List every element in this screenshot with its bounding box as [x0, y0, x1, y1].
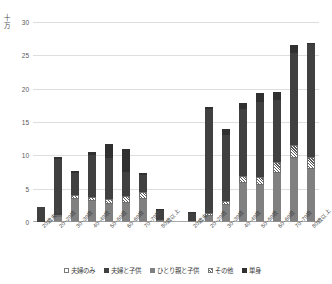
bar-segment — [139, 173, 147, 174]
legend-item[interactable]: 夫婦と子供 — [104, 266, 141, 275]
bar-segment — [256, 93, 264, 102]
bar-segment — [239, 109, 247, 176]
bar-segment — [256, 102, 264, 177]
plot-area — [33, 22, 319, 222]
bar-segment — [122, 149, 130, 172]
y-tick-label: 10 — [22, 152, 29, 159]
legend-label: ひとり親と子供 — [157, 266, 199, 275]
bar-column[interactable] — [307, 43, 315, 222]
chart-legend: 夫婦のみ夫婦と子供ひとり親と子供その他単身 — [0, 266, 325, 275]
bar-segment — [290, 53, 298, 146]
bar-segment — [105, 144, 113, 158]
bar-segment — [307, 43, 315, 44]
legend-item[interactable]: ひとり親と子供 — [150, 266, 199, 275]
bar-segment — [71, 195, 79, 199]
bar-segment — [256, 177, 264, 185]
bar-segment — [273, 100, 281, 162]
bar-segment — [71, 173, 79, 194]
legend-label: その他 — [215, 266, 233, 275]
y-tick-label: 25 — [22, 52, 29, 59]
bar-segment — [122, 172, 130, 196]
legend-item[interactable]: 夫婦のみ — [64, 266, 95, 275]
bar-segment — [139, 192, 147, 199]
legend-item[interactable]: その他 — [208, 266, 233, 275]
bar-segment — [307, 44, 315, 157]
y-tick-label: 15 — [22, 119, 29, 126]
bar-column[interactable] — [290, 45, 298, 222]
x-axis-tick-labels: 20歳未満20~29歳30~39歳40~49歳50~59歳60~69歳70~79… — [33, 224, 319, 258]
y-tick-label: 20 — [22, 85, 29, 92]
bar-column[interactable] — [239, 103, 247, 222]
bar-segment — [205, 107, 213, 109]
bar-segment — [54, 159, 62, 215]
bar-segment — [290, 45, 298, 52]
legend-label: 夫婦のみ — [71, 266, 95, 275]
legend-swatch — [242, 268, 247, 273]
bar-segment — [105, 158, 113, 199]
bar-segment — [54, 157, 62, 158]
bar-segment — [105, 199, 113, 204]
bar-segment — [88, 155, 96, 198]
legend-label: 夫婦と子供 — [111, 266, 141, 275]
gridline — [33, 22, 319, 23]
bar-segment — [188, 212, 196, 213]
bar-segment — [205, 109, 213, 213]
bar-segment — [71, 171, 79, 173]
bar-segment — [222, 129, 230, 134]
y-tick-label: 5 — [25, 185, 29, 192]
legend-swatch — [208, 268, 213, 273]
legend-swatch — [150, 268, 155, 273]
legend-label: 単身 — [249, 266, 261, 275]
bar-segment — [139, 175, 147, 192]
bar-column[interactable] — [256, 93, 264, 222]
bar-segment — [122, 196, 130, 203]
bar-segment — [273, 162, 281, 173]
legend-swatch — [64, 268, 69, 273]
bar-segment — [88, 197, 96, 201]
y-tick-label: 0 — [25, 219, 29, 226]
bar-segment — [290, 145, 298, 158]
gridline — [33, 89, 319, 90]
bar-segment — [88, 152, 96, 155]
legend-item[interactable]: 単身 — [242, 266, 261, 275]
legend-swatch — [104, 268, 109, 273]
y-axis-tick-labels: 051015202530 — [9, 22, 29, 222]
bar-segment — [239, 176, 247, 183]
gridline — [33, 55, 319, 56]
y-tick-label: 30 — [22, 19, 29, 26]
bar-segment — [273, 92, 281, 100]
bar-column[interactable] — [205, 107, 213, 222]
bar-segment — [222, 135, 230, 201]
bar-segment — [222, 201, 230, 206]
bar-column[interactable] — [273, 92, 281, 222]
bar-segment — [239, 103, 247, 109]
bar-segment — [307, 157, 315, 168]
